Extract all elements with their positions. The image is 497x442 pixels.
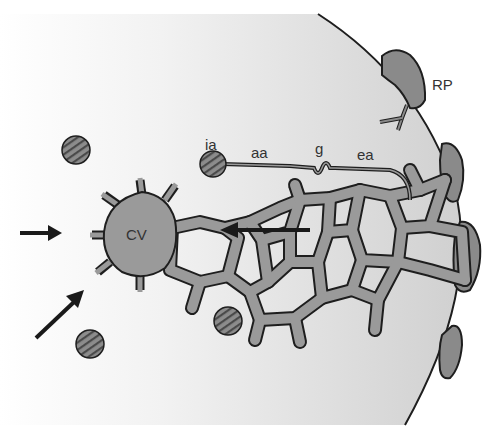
arteriole-left-bottom xyxy=(76,330,104,358)
portal-3 xyxy=(439,326,462,379)
label-cv: CV xyxy=(126,226,147,243)
arteriole-left-top xyxy=(62,136,90,164)
label-rp: RP xyxy=(432,76,453,93)
arteriole-ia xyxy=(200,151,226,177)
arteriole-center-bottom xyxy=(214,307,242,335)
liver-lobule-diagram: CV ia aa g ea RP xyxy=(0,0,497,442)
label-aa: aa xyxy=(251,144,268,161)
label-g: g xyxy=(315,140,323,157)
label-ea: ea xyxy=(357,146,374,163)
label-ia: ia xyxy=(205,136,217,153)
